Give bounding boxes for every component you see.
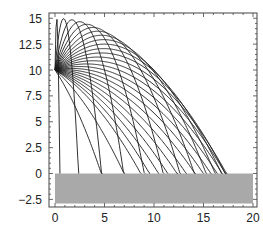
y-tick-label: 2.5 xyxy=(25,141,42,155)
trajectory-line xyxy=(55,70,150,174)
trajectory-line xyxy=(55,44,215,173)
y-tick-label: 0 xyxy=(35,167,42,181)
y-tick-label: 5 xyxy=(35,115,42,129)
ground-rect xyxy=(55,174,253,204)
trajectory-line xyxy=(55,49,222,174)
y-tick-label: 10 xyxy=(29,64,43,78)
x-tick-label: 20 xyxy=(246,211,260,225)
trajectory-line xyxy=(55,70,168,174)
x-tick-label: 0 xyxy=(52,211,59,225)
y-tick-label: 7.5 xyxy=(25,89,42,103)
trajectory-line xyxy=(55,70,124,174)
x-tick-label: 5 xyxy=(101,211,108,225)
trajectory-chart: 05101520 1512.5107.552.50−2.5 xyxy=(0,0,263,226)
y-tick-label: −2.5 xyxy=(18,193,42,207)
y-tick-label: 15 xyxy=(29,12,43,26)
y-tick-label: 12.5 xyxy=(19,38,43,52)
x-axis-tick-labels: 05101520 xyxy=(52,211,260,225)
ground-block xyxy=(55,174,253,204)
x-tick-label: 10 xyxy=(147,211,161,225)
x-tick-label: 15 xyxy=(197,211,211,225)
trajectory-line xyxy=(55,19,60,173)
trajectory-curves xyxy=(55,19,227,174)
y-axis-tick-labels: 1512.5107.552.50−2.5 xyxy=(18,12,42,207)
